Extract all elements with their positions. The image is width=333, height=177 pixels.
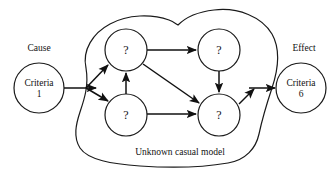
cause-label: Cause xyxy=(27,43,50,53)
node-criteria-6-label-line2: 6 xyxy=(299,89,304,99)
edge-bottom-right-to-exit xyxy=(239,89,254,104)
node-criteria-6[interactable] xyxy=(276,63,326,113)
node-criteria-1-label-line2: 1 xyxy=(37,89,42,99)
effect-label: Effect xyxy=(292,43,315,53)
diagram-canvas: Criteria 1 Criteria 6 ? ? ? ? Cause Effe… xyxy=(0,0,333,177)
node-hidden-bottom-left-label: ? xyxy=(123,108,128,122)
node-criteria-1[interactable] xyxy=(14,63,64,113)
node-hidden-top-right-label: ? xyxy=(216,43,221,57)
edge-top-left-to-bottom-right xyxy=(143,64,199,103)
edge-junction-to-bottom-left xyxy=(86,88,108,101)
causal-model-diagram: Criteria 1 Criteria 6 ? ? ? ? Cause Effe… xyxy=(0,0,333,177)
node-hidden-top-left-label: ? xyxy=(123,43,128,57)
node-criteria-6-label-line1: Criteria xyxy=(286,78,316,88)
unknown-model-caption: Unknown casual model xyxy=(135,147,225,157)
edge-junction-to-top-left xyxy=(86,65,108,88)
node-hidden-bottom-right-label: ? xyxy=(216,108,221,122)
node-criteria-1-label-line1: Criteria xyxy=(24,78,54,88)
